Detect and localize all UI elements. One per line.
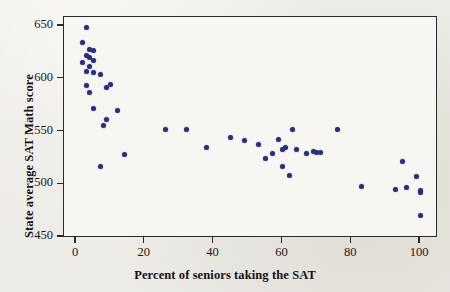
x-axis-tick-label: 60 [261, 245, 301, 260]
x-axis-tick-label: 0 [55, 245, 95, 260]
plot-area [63, 16, 437, 237]
data-point [184, 127, 189, 132]
data-point [263, 156, 268, 161]
data-point [104, 117, 109, 122]
y-axis-tick-label: 450 [9, 228, 53, 243]
data-point [400, 159, 405, 164]
y-axis-tick-label: 650 [9, 17, 53, 32]
data-point [87, 90, 92, 95]
data-point [80, 60, 85, 65]
data-point [276, 137, 281, 142]
data-point [256, 142, 261, 147]
x-axis-tick-label: 40 [193, 245, 233, 260]
data-point [283, 145, 288, 150]
data-point [290, 127, 295, 132]
data-point [115, 108, 120, 113]
data-point [84, 69, 89, 74]
data-point [163, 127, 168, 132]
data-point [393, 187, 398, 192]
x-axis-tick [350, 237, 351, 243]
data-point [204, 145, 209, 150]
data-point [84, 25, 89, 30]
y-axis-tick [57, 130, 63, 131]
data-point [294, 147, 299, 152]
x-axis-tick-label: 20 [124, 245, 164, 260]
data-point [359, 184, 364, 189]
data-point [418, 190, 423, 195]
data-point-layer [64, 17, 436, 236]
data-point [91, 58, 96, 63]
data-point [98, 72, 103, 77]
y-axis-tick [57, 24, 63, 25]
data-point [91, 48, 96, 53]
y-axis-tick [57, 183, 63, 184]
data-point [80, 40, 85, 45]
data-point [91, 70, 96, 75]
y-axis-tick [57, 235, 63, 236]
data-point [228, 135, 233, 140]
x-axis-tick [74, 237, 75, 243]
data-point [418, 213, 423, 218]
x-axis-tick [418, 237, 419, 243]
data-point [98, 164, 103, 169]
x-axis-title: Percent of seniors taking the SAT [0, 268, 450, 283]
data-point [101, 123, 106, 128]
data-point [91, 106, 96, 111]
x-axis-tick [212, 237, 213, 243]
data-point [414, 174, 419, 179]
data-point [404, 185, 409, 190]
data-point [287, 173, 292, 178]
x-axis-tick-label: 80 [330, 245, 370, 260]
y-axis-title: State average SAT Math score [22, 74, 37, 238]
y-axis-tick [57, 77, 63, 78]
data-point [280, 164, 285, 169]
x-axis-tick [143, 237, 144, 243]
data-point [122, 152, 127, 157]
data-point [304, 151, 309, 156]
data-point [108, 82, 113, 87]
y-axis-tick-label: 550 [9, 123, 53, 138]
data-point [84, 83, 89, 88]
scatter-chart-figure: State average SAT Math score Percent of … [0, 0, 450, 292]
data-point [270, 151, 275, 156]
y-axis-tick-label: 600 [9, 70, 53, 85]
x-axis-tick [281, 237, 282, 243]
x-axis-tick-label: 100 [399, 245, 439, 260]
data-point [242, 138, 247, 143]
data-point [87, 64, 92, 69]
data-point [335, 127, 340, 132]
data-point [318, 150, 323, 155]
y-axis-tick-label: 500 [9, 175, 53, 190]
